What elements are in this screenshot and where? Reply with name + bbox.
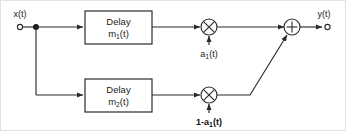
gain-label-bottom: 1-a1(t) <box>196 117 222 128</box>
delay-block-2-title: Delay <box>106 84 131 95</box>
wire-multiplier-bottom-to-adder <box>217 35 287 95</box>
input-terminal-icon <box>17 24 22 29</box>
delay-block-2-tail: (t) <box>120 96 129 107</box>
input-label: x(t) <box>14 9 27 19</box>
output-label: y(t) <box>318 9 331 19</box>
block-diagram-canvas: x(t) Delay m1(t) Delay m2(t) <box>0 0 346 131</box>
gain-label-bottom-prefix: 1-a <box>196 117 210 127</box>
gain-label-top: a1(t) <box>200 49 217 60</box>
delay-block-1-title: Delay <box>106 16 131 27</box>
delay-block-2-base: m <box>108 96 116 107</box>
output-terminal-icon <box>325 24 330 29</box>
gain-label-top-tail: (t) <box>209 49 218 59</box>
delay-block-1-base: m <box>108 28 116 39</box>
gain-label-bottom-tail: (t) <box>213 117 222 127</box>
delay-block-1-tail: (t) <box>120 28 129 39</box>
block-diagram-svg: x(t) Delay m1(t) Delay m2(t) <box>0 0 346 131</box>
